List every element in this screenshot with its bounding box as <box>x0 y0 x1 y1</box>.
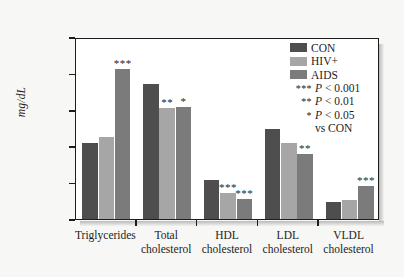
legend-label: HIV+ <box>311 55 338 67</box>
bar-aids-3 <box>297 154 313 219</box>
x-category-label-line1: LDL <box>277 229 299 241</box>
bar-con-0 <box>82 143 98 219</box>
legend-item-hivplus: HIV+ <box>290 55 376 68</box>
bar-con-4 <box>326 202 342 219</box>
x-category-label-line2: cholesterol <box>310 242 387 256</box>
x-tick-mark <box>257 220 259 226</box>
x-tick-mark <box>135 220 137 226</box>
significance-marker: *** <box>354 177 378 183</box>
legend-swatch <box>290 43 307 52</box>
legend-pvalue-stars: ** <box>290 96 315 107</box>
significance-marker: *** <box>233 190 257 196</box>
legend-item-con: CON <box>290 41 376 54</box>
x-category-label-line1: HDL <box>215 229 239 241</box>
legend-label: AIDS <box>311 69 338 81</box>
bar-aids-1 <box>176 107 192 219</box>
figure-container: mg/dL 050100150200250 ***************** … <box>0 0 404 277</box>
bar-hivplus-3 <box>281 143 297 219</box>
x-category-label-line1: Triglycerides <box>75 229 136 241</box>
legend-pvalue-text: P < 0.05 <box>315 109 354 121</box>
significance-marker: * <box>172 98 196 104</box>
bar-aids-4 <box>358 186 374 219</box>
figure-shadow-bottom <box>80 221 384 226</box>
x-category-label-line1: Total <box>154 229 177 241</box>
legend-swatch <box>290 70 307 79</box>
x-tick-mark <box>317 220 319 226</box>
legend-pvalue-row: *P < 0.05 <box>290 109 376 123</box>
legend-comparison-label: vs CON <box>290 122 376 136</box>
bar-aids-2 <box>237 199 253 219</box>
legend-item-aids: AIDS <box>290 68 376 81</box>
y-axis-label: mg/dL <box>15 67 27 137</box>
legend-pvalue-text: P < 0.001 <box>315 82 360 94</box>
figure-shadow-right <box>379 44 384 226</box>
legend-swatch <box>290 57 307 66</box>
bar-hivplus-1 <box>159 108 175 219</box>
legend-pvalue-stars: * <box>290 110 315 121</box>
bar-hivplus-0 <box>99 137 115 219</box>
bar-con-3 <box>265 129 281 219</box>
significance-marker: *** <box>111 60 135 66</box>
legend-pvalue-row: ***P < 0.001 <box>290 82 376 96</box>
bar-hivplus-4 <box>342 200 358 219</box>
legend-pvalue-row: **P < 0.01 <box>290 95 376 109</box>
x-category-label-line1: VLDL <box>333 229 364 241</box>
significance-marker: ** <box>293 145 317 151</box>
x-category-label: VLDLcholesterol <box>310 228 387 256</box>
legend-pvalue-text: P < 0.01 <box>315 95 354 107</box>
bar-aids-0 <box>115 69 131 219</box>
chart-legend: CONHIV+AIDS***P < 0.001**P < 0.01*P < 0.… <box>290 41 376 136</box>
legend-label: CON <box>311 42 335 54</box>
legend-pvalue-stars: *** <box>290 83 315 94</box>
x-tick-mark <box>196 220 198 226</box>
bar-hivplus-2 <box>220 193 236 219</box>
